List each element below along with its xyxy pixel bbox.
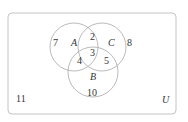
region-a-only: 7 [53,37,58,48]
label-universe: U [162,94,170,105]
region-b-only: 10 [87,87,97,98]
region-a-c: 2 [90,31,95,42]
label-a: A [70,37,78,48]
region-a-b: 4 [77,55,82,66]
circle-c [78,23,126,71]
label-b: B [90,71,96,82]
venn-diagram: 7 A 2 C 8 3 4 5 B 10 11 U [0,0,188,122]
region-a-b-c: 3 [90,47,95,58]
region-b-c: 5 [104,55,109,66]
universe-rectangle [8,13,176,114]
label-c: C [108,37,115,48]
region-outside: 11 [16,93,26,104]
region-c-only: 8 [127,37,132,48]
